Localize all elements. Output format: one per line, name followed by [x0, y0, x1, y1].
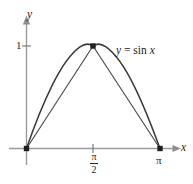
- equation-equals: =: [121, 44, 133, 56]
- sine-curve-path: [27, 44, 161, 148]
- point-marker-apex: [90, 43, 95, 48]
- x-axis-label: x: [181, 142, 186, 154]
- x-tick-label-pi-over-two: π 2: [86, 152, 102, 175]
- fraction-numerator: π: [90, 152, 97, 163]
- curve-equation-label: y = sin x: [116, 45, 155, 57]
- y-axis-label: y: [27, 9, 32, 21]
- point-marker-origin: [24, 146, 29, 151]
- equation-function-name: sin: [133, 44, 146, 56]
- sine-curve-figure: y x 1 π 2 π y = sin x: [0, 0, 193, 184]
- fraction-denominator: 2: [90, 165, 97, 176]
- x-axis-arrowhead: [173, 145, 182, 152]
- equation-argument: x: [150, 44, 155, 56]
- y-tick-label-1: 1: [16, 40, 22, 51]
- point-marker-pi: [157, 146, 162, 151]
- fraction-pi-over-two: π 2: [90, 152, 97, 175]
- x-tick-label-pi: π: [156, 155, 162, 166]
